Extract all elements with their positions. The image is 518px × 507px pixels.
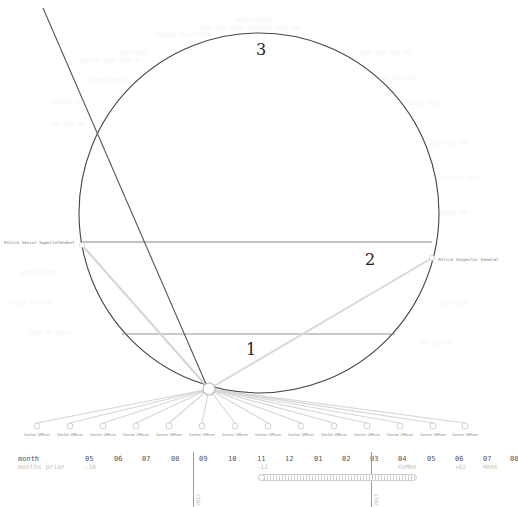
officer-spoke	[37, 389, 209, 423]
sector-officer-label: Sector Officer	[321, 432, 347, 437]
sector-officer-label: Sector Officer	[255, 432, 281, 437]
timeline-month[interactable]: 07	[483, 455, 491, 463]
timeline-month[interactable]: 12	[285, 455, 293, 463]
sector-officer-label: Sector Officer	[288, 432, 314, 437]
rank-label-superintendent[interactable]: Police Senior Superintendent	[4, 240, 75, 245]
timeline-month-annotation: +02	[455, 463, 466, 470]
superintendent-node[interactable]	[80, 243, 85, 248]
sector-officer-node[interactable]	[232, 423, 238, 429]
timeline-month[interactable]: 06	[455, 455, 463, 463]
year-label: 2013	[373, 494, 379, 506]
officer-spoke	[209, 389, 334, 423]
timeline-month-annotation: MAHA	[483, 463, 497, 470]
sector-officer-label: Sector Officer	[57, 432, 83, 437]
year-label: 2012	[195, 494, 201, 506]
sector-officer-node[interactable]	[67, 423, 73, 429]
sector-officer-node[interactable]	[199, 423, 205, 429]
timeline-month[interactable]: 04	[398, 455, 406, 463]
sector-officer-node[interactable]	[34, 423, 40, 429]
timeline-month[interactable]: 08	[510, 455, 518, 463]
timeline-month-annotation: -38	[85, 463, 96, 470]
timeline-month[interactable]: 05	[85, 455, 93, 463]
sector-officer-node[interactable]	[462, 423, 468, 429]
officer-spoke	[103, 389, 209, 423]
officer-spoke	[209, 389, 433, 423]
hub-node[interactable]	[203, 383, 215, 395]
timeline-month[interactable]: 01	[314, 455, 322, 463]
sector-officer-label: Sector Officer	[24, 432, 50, 437]
timeline-range-slider[interactable]	[258, 474, 417, 481]
timeline-month[interactable]: 09	[199, 455, 207, 463]
timeline-month[interactable]: 07	[142, 455, 150, 463]
sector-officer-node[interactable]	[298, 423, 304, 429]
sector-officer-node[interactable]	[397, 423, 403, 429]
sector-officer-label: Sector Officer	[452, 432, 478, 437]
zone-3-label: 3	[256, 40, 266, 59]
sector-officer-node[interactable]	[364, 423, 370, 429]
superintendent-link	[82, 245, 209, 389]
sector-officer-label: Sector Officer	[189, 432, 215, 437]
timeline: month months prior 05-38060708091011-121…	[0, 450, 518, 507]
timeline-month[interactable]: 10	[228, 455, 236, 463]
timeline-month[interactable]: 06	[114, 455, 122, 463]
sector-officer-label: Sector Officer	[156, 432, 182, 437]
zone-2-label: 2	[365, 250, 375, 269]
sector-officer-node[interactable]	[133, 423, 139, 429]
inspector-general-link	[209, 258, 432, 389]
sector-officer-node[interactable]	[331, 423, 337, 429]
timeline-month[interactable]: 08	[171, 455, 179, 463]
sector-officer-label: Sector Officer	[123, 432, 149, 437]
hierarchy-diagram	[0, 0, 518, 507]
sector-officer-node[interactable]	[100, 423, 106, 429]
timeline-row-label: month	[18, 455, 39, 463]
year-divider	[193, 452, 194, 507]
inspector-general-node[interactable]	[430, 256, 435, 261]
officer-nodes	[34, 423, 468, 429]
timeline-month-annotation: -12	[257, 463, 268, 470]
timeline-month-annotation: KUMBH	[398, 463, 416, 470]
sector-officer-label: Sector Officer	[420, 432, 446, 437]
sector-officer-label: Sector Officer	[387, 432, 413, 437]
officer-spoke	[136, 389, 209, 423]
officer-spoke	[209, 389, 465, 423]
timeline-month[interactable]: 11	[257, 455, 265, 463]
command-line	[43, 8, 206, 384]
timeline-range-handle[interactable]	[258, 474, 265, 481]
sector-officer-node[interactable]	[430, 423, 436, 429]
timeline-month[interactable]: 05	[427, 455, 435, 463]
timeline-month[interactable]: 02	[342, 455, 350, 463]
sector-officer-node[interactable]	[166, 423, 172, 429]
sector-officer-label: Sector Officer	[354, 432, 380, 437]
sector-officer-node[interactable]	[265, 423, 271, 429]
jurisdiction-circle	[79, 33, 439, 393]
rank-label-inspector-general[interactable]: Police Inspector General	[438, 257, 499, 262]
officer-spokes	[37, 389, 465, 423]
timeline-sub-label: months prior	[18, 463, 65, 471]
sector-officer-label: Sector Officer	[222, 432, 248, 437]
zone-1-label: 1	[246, 340, 256, 359]
sector-officer-label: Sector Officer	[90, 432, 116, 437]
